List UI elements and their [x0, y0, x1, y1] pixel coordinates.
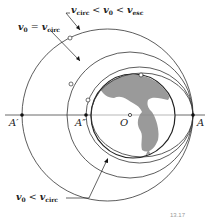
orbit-marker: [69, 82, 73, 86]
orbit-marker: [86, 98, 90, 102]
label-circular-condition: v0 = vcirc: [18, 22, 60, 33]
label-suborbital-condition: v0 < vcirc: [16, 192, 58, 203]
label-point-A-double-prime: A″: [75, 118, 86, 128]
orbit-marker: [139, 73, 143, 77]
label-point-A: A: [197, 118, 204, 128]
point-A-prime-dot: [20, 113, 24, 117]
point-A-dot: [191, 113, 195, 117]
orbit-diagram: vcirc < v0 < vesc v0 = vcirc v0 < vcirc …: [0, 0, 208, 219]
figure-number: 13.17: [170, 212, 185, 218]
label-elliptical-condition: vcirc < v0 < vesc: [71, 5, 143, 16]
label-point-A-prime: A′: [9, 118, 19, 128]
label-point-O: O: [120, 118, 128, 128]
orbit-marker: [68, 36, 72, 40]
arrowhead-icon: [76, 56, 80, 61]
arrowhead-icon: [104, 158, 108, 163]
point-O-dot: [128, 113, 131, 116]
earth: [91, 72, 175, 162]
